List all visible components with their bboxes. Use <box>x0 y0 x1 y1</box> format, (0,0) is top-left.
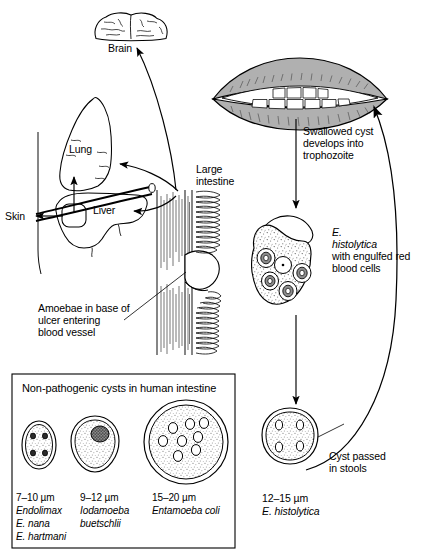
ulcer-leader-line <box>124 272 186 320</box>
inset-cyst-2-size: 15–20 µm <box>152 492 196 504</box>
brain-label: Brain <box>108 42 132 54</box>
large-intestine-label-line1: Large <box>196 163 222 175</box>
trophozoite-name-line2: histolytica <box>332 238 377 250</box>
cyst-icon <box>262 408 318 464</box>
inset-heading: Non-pathogenic cysts in human intestine <box>22 382 216 394</box>
lung-label: Lung <box>69 143 92 155</box>
intestine-icon <box>149 184 221 355</box>
cyst-leader-line <box>318 424 344 437</box>
inset-cyst-0-size: 7–10 µm <box>16 492 54 504</box>
cyst-passed-line1: Cyst passed <box>329 450 386 462</box>
ulcer-icon <box>185 251 219 289</box>
inset-cyst-0-species-1: E. nana <box>16 518 50 530</box>
inset-cyst-endolimax-icon <box>22 421 56 469</box>
cyst-species-label: E. histolytica <box>262 505 320 517</box>
arrow-to-brain <box>137 48 176 190</box>
ulcer-caption-line2: ulcer entering <box>38 314 100 326</box>
large-intestine-label-line2: intestine <box>196 175 234 187</box>
mouth-icon <box>213 58 387 130</box>
ulcer-caption-line1: Amoebae in base of <box>38 302 130 314</box>
inset-cyst-0-species-2: E. hartmani <box>16 531 66 543</box>
inset-cyst-iodamoeba-icon <box>71 416 119 472</box>
liver-label: Liver <box>93 204 115 216</box>
inset-cyst-0-genus: Endolimax <box>16 505 62 517</box>
inset-cyst-2-genus: Entamoeba coli <box>152 505 220 517</box>
cyst-size-label: 12–15 µm <box>262 492 308 504</box>
swallowed-caption-line3: trophozoite <box>303 149 354 161</box>
trophozoite-desc-line1: with engulfed red <box>332 250 410 262</box>
diagram-canvas: Brain Lung Liver Skin Large intestine Am… <box>0 0 431 557</box>
trophozoite-icon <box>252 216 313 304</box>
inset-cyst-entamoeba-coli-icon <box>144 400 228 484</box>
inset-cyst-1-species-1: buetschlii <box>80 518 121 530</box>
body-outline <box>38 132 41 274</box>
swallowed-caption-line2: develops into <box>303 137 364 149</box>
trophozoite-desc-line2: blood cells <box>332 262 381 274</box>
skin-label: Skin <box>5 210 25 222</box>
arrow-cyst-to-mouth <box>306 107 397 470</box>
swallowed-caption-line1: Swallowed cyst <box>303 125 373 137</box>
inset-cyst-1-size: 9–12 µm <box>80 492 118 504</box>
trophozoite-name-line1: E. <box>332 226 342 238</box>
ulcer-caption-line3: blood vessel <box>38 326 95 338</box>
brain-icon <box>95 13 167 41</box>
cyst-passed-line2: in stools <box>329 462 367 474</box>
inset-cyst-1-genus: Iodamoeba <box>80 505 129 517</box>
